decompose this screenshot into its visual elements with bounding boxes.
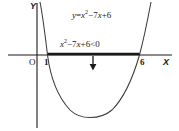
- x-axis-label: X: [163, 58, 169, 67]
- y-axis-label: Y: [30, 2, 36, 11]
- curve-equation-label: y=x2−7x+6: [72, 11, 111, 20]
- ineq-rhs: 0: [95, 39, 100, 49]
- down-arrow-head: [90, 64, 97, 71]
- inequality-label: x2−7x+6<0: [60, 40, 100, 49]
- eq-constant: 6: [107, 10, 112, 20]
- origin-label: O: [29, 58, 36, 67]
- tick-label-1: 1: [44, 58, 49, 67]
- tick-label-6: 6: [140, 58, 145, 67]
- quadratic-inequality-figure: Y X O 1 6 y=x2−7x+6 x2−7x+6<0: [0, 0, 179, 131]
